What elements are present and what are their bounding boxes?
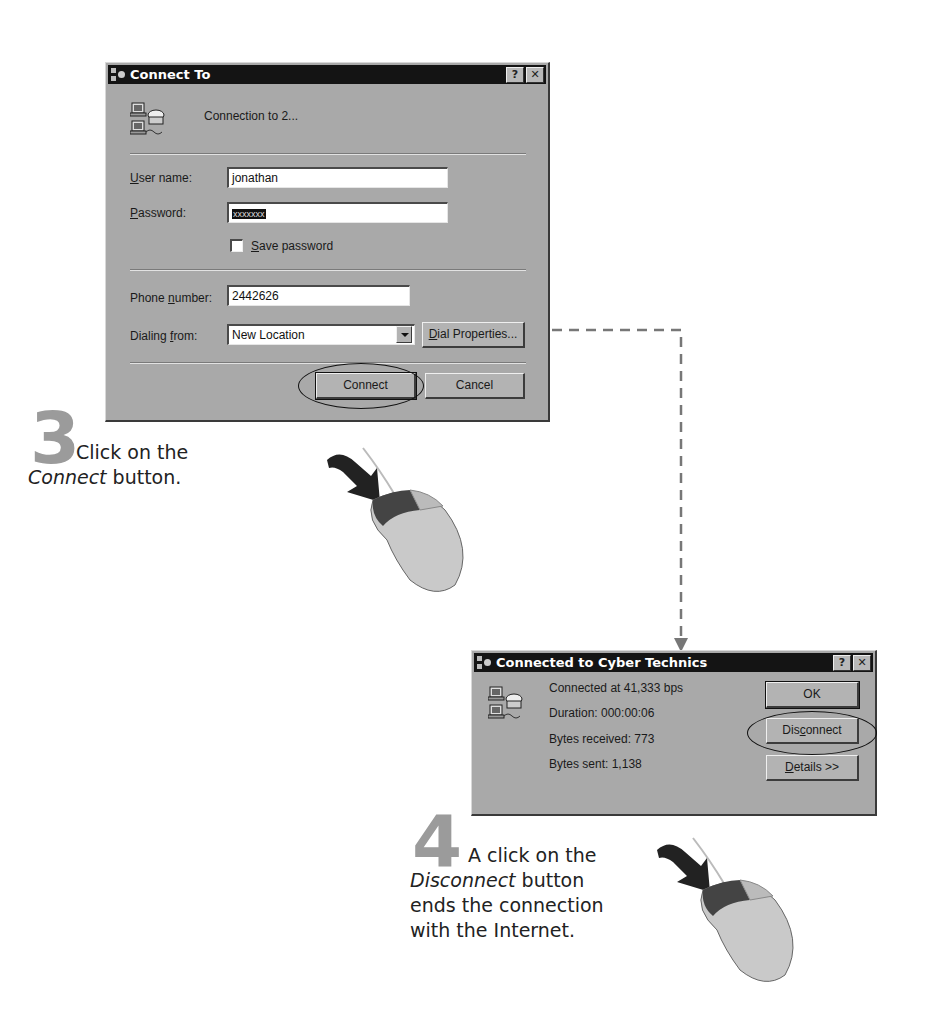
network-connection-icon [130, 101, 166, 139]
password-masked-value: xxxxxxx [232, 209, 266, 219]
dialup-icon [476, 655, 494, 671]
phone-number-input[interactable]: 2442626 [227, 285, 410, 306]
step-4-text: A click on the Disconnect button ends th… [410, 843, 604, 943]
dialing-from-label: Dialing from: [130, 329, 197, 343]
connect-button[interactable]: Connect [316, 373, 416, 399]
dialing-from-value: New Location [232, 328, 305, 342]
connection-speed: Connected at 41,333 bps [549, 681, 683, 695]
password-input[interactable]: xxxxxxx [227, 202, 448, 223]
cancel-button[interactable]: Cancel [425, 373, 525, 399]
title-bar[interactable]: Connected to Cyber Technics ? ✕ [474, 653, 873, 672]
network-connection-icon [488, 685, 524, 723]
details-button[interactable]: Details >> [766, 755, 859, 781]
dial-properties-button[interactable]: Dial Properties... [422, 322, 525, 348]
phone-number-label: Phone number: [130, 291, 212, 305]
save-password-label[interactable]: Save password [251, 239, 333, 253]
user-name-label: User name: [130, 171, 192, 185]
help-button[interactable]: ? [833, 655, 851, 671]
connection-name: Connection to 2... [204, 109, 298, 123]
close-button[interactable]: ✕ [853, 655, 871, 671]
disconnect-button[interactable]: Disconnect [766, 718, 859, 744]
connection-duration: Duration: 000:00:06 [549, 706, 654, 720]
password-label: Password: [130, 206, 186, 220]
separator [130, 269, 526, 271]
dialog-title: Connect To [130, 67, 210, 82]
close-button[interactable]: ✕ [526, 67, 544, 83]
bytes-received: Bytes received: 773 [549, 732, 654, 746]
connect-to-dialog: Connect To ? ✕ Connection to 2... User n… [105, 62, 550, 422]
title-bar[interactable]: Connect To ? ✕ [108, 65, 546, 84]
mouse-click-illustration [325, 440, 475, 595]
ok-button[interactable]: OK [766, 682, 859, 708]
mouse-click-illustration [655, 830, 805, 985]
connected-status-dialog: Connected to Cyber Technics ? ✕ Connecte… [471, 650, 877, 816]
dialup-icon [110, 67, 128, 83]
chevron-down-icon[interactable] [396, 326, 412, 343]
dialog-title: Connected to Cyber Technics [496, 655, 707, 670]
separator [130, 362, 526, 364]
dashed-connector-arrow [550, 320, 690, 660]
save-password-checkbox[interactable] [230, 239, 243, 252]
user-name-input[interactable]: jonathan [227, 167, 448, 188]
help-button[interactable]: ? [506, 67, 524, 83]
step-3-text: Click on the Connect button. [28, 440, 188, 490]
separator [130, 153, 526, 155]
bytes-sent: Bytes sent: 1,138 [549, 757, 642, 771]
dialing-from-select[interactable]: New Location [227, 324, 415, 345]
